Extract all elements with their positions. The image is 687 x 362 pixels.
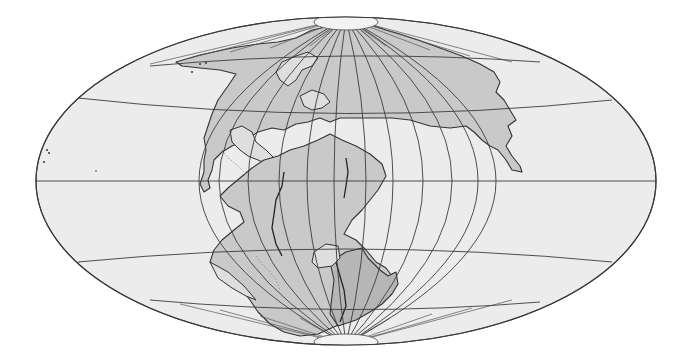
south-polar-cap bbox=[314, 334, 378, 350]
map-container bbox=[0, 0, 687, 362]
pangaea-map bbox=[0, 0, 687, 362]
